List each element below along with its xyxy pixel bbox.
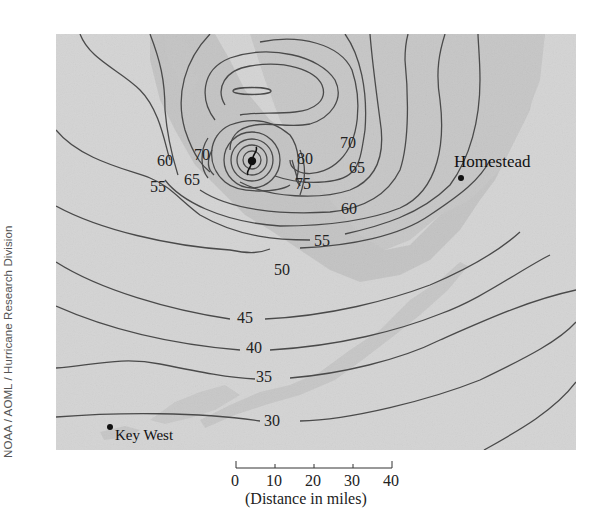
contour-label-30: 30 [264, 413, 280, 429]
map-canvas [0, 0, 603, 520]
contour-label-70-left: 70 [194, 147, 210, 163]
scale-tick-10: 10 [266, 472, 282, 490]
contour-label-55-right: 55 [314, 233, 330, 249]
contour-label-70-right: 70 [340, 135, 356, 151]
contour-label-55-left: 55 [150, 179, 166, 195]
scale-bar [236, 461, 392, 468]
contour-label-60-left: 60 [157, 153, 173, 169]
contour-label-80: 80 [297, 151, 313, 167]
contour-label-60-right: 60 [341, 201, 357, 217]
contour-label-45: 45 [237, 310, 253, 326]
contour-label-65-right: 65 [349, 160, 365, 176]
scale-tick-20: 20 [305, 472, 321, 490]
homestead-dot-icon [458, 175, 464, 181]
scale-tick-0: 0 [231, 472, 239, 490]
image-credit: NOAA / AOML / Hurricane Research Divisio… [2, 226, 14, 458]
scale-tick-30: 30 [344, 472, 360, 490]
hurricane-contour-map-figure: 60 70 55 65 80 75 70 65 60 55 50 45 40 3… [0, 0, 603, 520]
contour-label-35: 35 [256, 369, 272, 385]
contour-label-75: 75 [295, 176, 311, 192]
contour-label-65-left: 65 [184, 172, 200, 188]
place-label-key-west: Key West [115, 427, 173, 444]
key-west-dot-icon [107, 424, 113, 430]
scale-tick-40: 40 [383, 472, 399, 490]
contour-label-50: 50 [274, 262, 290, 278]
contour-label-40: 40 [246, 340, 262, 356]
place-label-homestead: Homestead [454, 152, 530, 172]
scale-caption: (Distance in miles) [245, 490, 367, 508]
